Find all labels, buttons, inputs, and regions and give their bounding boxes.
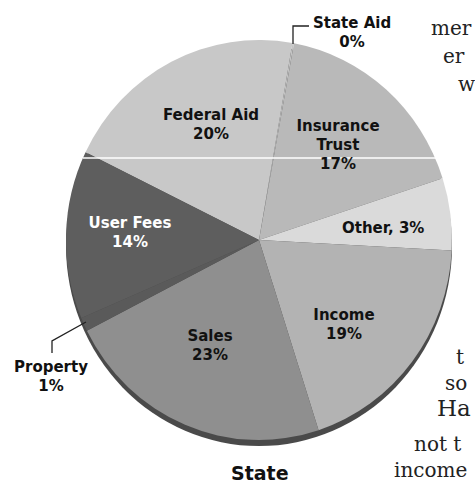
label-income-name: Income	[304, 306, 384, 325]
property-callout-line	[52, 322, 86, 353]
label-property: Property 1%	[6, 358, 96, 396]
label-state-aid-name: State Aid	[313, 14, 391, 33]
label-sales-pct: 23%	[170, 346, 250, 365]
label-income: Income 19%	[304, 306, 384, 344]
chart-title: State	[231, 462, 289, 484]
label-user-fees-name: User Fees	[80, 214, 180, 233]
label-user-fees-pct: 14%	[80, 233, 180, 252]
label-insurance-trust-pct: 17%	[288, 155, 388, 174]
body-text-line-5: so	[445, 371, 467, 395]
label-insurance-trust-name2: Trust	[288, 136, 388, 155]
label-federal-aid: Federal Aid 20%	[152, 106, 270, 144]
state-aid-callout-line	[293, 26, 309, 44]
label-sales-name: Sales	[170, 327, 250, 346]
body-text-line-2: er	[443, 44, 464, 68]
label-federal-aid-name: Federal Aid	[152, 106, 270, 125]
label-property-pct: 1%	[6, 377, 96, 396]
label-other-text: Other, 3%	[342, 219, 424, 238]
body-text-line-8: income	[394, 458, 467, 482]
label-state-aid-pct: 0%	[313, 33, 391, 52]
label-insurance-trust: Insurance Trust 17%	[288, 117, 388, 174]
label-property-name: Property	[6, 358, 96, 377]
label-user-fees: User Fees 14%	[80, 214, 180, 252]
body-text-line-7: not t	[414, 432, 461, 456]
label-federal-aid-pct: 20%	[152, 125, 270, 144]
label-insurance-trust-name1: Insurance	[288, 117, 388, 136]
label-income-pct: 19%	[304, 325, 384, 344]
body-text-line-3: w	[458, 72, 475, 96]
body-text-line-1: mer	[431, 16, 471, 40]
label-state-aid: State Aid 0%	[313, 14, 391, 52]
label-sales: Sales 23%	[170, 327, 250, 365]
body-text-line-6: Ha	[437, 396, 471, 420]
label-other: Other, 3%	[342, 219, 424, 238]
body-text-line-4: t	[456, 345, 464, 369]
